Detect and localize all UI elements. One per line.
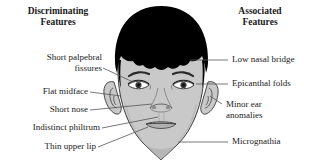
- label-line-2: anomalies: [226, 110, 318, 121]
- label-short-nose: Short nose: [0, 104, 88, 115]
- label-line-1: Short palpebral: [0, 52, 102, 63]
- label-epicanthal-folds: Epicanthal folds: [232, 78, 320, 89]
- label-indistinct-philtrum: Indistinct philtrum: [0, 122, 100, 133]
- label-line-1: Thin upper lip: [0, 141, 96, 152]
- label-flat-midface: Flat midface: [0, 86, 88, 97]
- heading-discriminating-features: Discriminating Features: [8, 6, 108, 27]
- eye-right: [173, 80, 194, 89]
- label-micrognathia: Micrognathia: [232, 136, 320, 147]
- label-line-1: Short nose: [0, 104, 88, 115]
- heading-left-line2: Features: [8, 17, 108, 28]
- figure-canvas: Discriminating Features Associated Featu…: [0, 0, 320, 164]
- heading-right-line1: Associated: [210, 6, 310, 17]
- heading-right-line2: Features: [210, 17, 310, 28]
- label-short-palpebral-fissures: Short palpebral fissures: [0, 52, 102, 73]
- heading-left-line1: Discriminating: [8, 6, 108, 17]
- label-minor-ear-anomalies: Minor ear anomalies: [226, 99, 318, 120]
- heading-associated-features: Associated Features: [210, 6, 310, 27]
- label-line-2: fissures: [0, 63, 102, 74]
- label-line-1: Flat midface: [0, 86, 88, 97]
- label-thin-upper-lip: Thin upper lip: [0, 141, 96, 152]
- label-line-1: Micrognathia: [232, 136, 320, 147]
- eye-left: [128, 80, 149, 89]
- label-line-1: Epicanthal folds: [232, 78, 320, 89]
- label-low-nasal-bridge: Low nasal bridge: [232, 54, 320, 65]
- label-line-1: Minor ear: [226, 99, 318, 110]
- label-line-1: Indistinct philtrum: [0, 122, 100, 133]
- label-line-1: Low nasal bridge: [232, 54, 320, 65]
